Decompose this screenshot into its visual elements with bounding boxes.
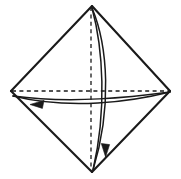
meridian-arc-vertical — [92, 8, 110, 170]
edge-left-to-top — [11, 6, 92, 91]
octahedron-rotation-diagram — [0, 0, 181, 179]
arrowhead-left-icon — [30, 100, 44, 108]
figure-container — [0, 0, 181, 179]
dashed-axes-group — [12, 7, 169, 171]
